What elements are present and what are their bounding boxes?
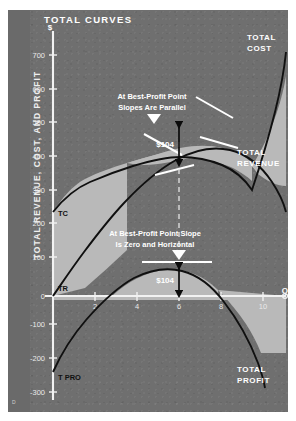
total-profit-label-line2: PROFIT	[237, 376, 270, 385]
figure-page: TOTAL REVENUE, COST, AND PROFIT TOTAL CU…	[0, 0, 296, 421]
total-revenue-label-line2: REVENUE	[237, 159, 280, 168]
ytick-0: 0	[41, 292, 45, 301]
ytick-200: 200	[32, 219, 45, 228]
upper-annotation-marker	[147, 114, 161, 124]
chart-svg: $ Q 700 600 500 400 300 200 100 0 -100 -…	[0, 0, 296, 421]
ytick-400: 400	[32, 152, 45, 161]
ytick-700: 700	[32, 51, 45, 60]
ytick-m100: -100	[30, 320, 45, 329]
xtick-8: 8	[219, 302, 223, 311]
xtick-4: 4	[135, 302, 139, 311]
upper-annotation-line2: Slopes Are Parallel	[118, 103, 186, 112]
total-cost-label-line1: TOTAL	[247, 33, 276, 42]
upper-gap-label: $104	[156, 140, 174, 149]
lower-gap-label: $104	[156, 276, 174, 285]
ytick-100: 100	[32, 253, 45, 262]
ytick-500: 500	[32, 118, 45, 127]
tc-inline-label: TC	[58, 209, 69, 218]
ytick-600: 600	[32, 85, 45, 94]
tr-inline-label: TR	[58, 284, 69, 293]
corner-mark: D	[12, 399, 16, 405]
ytick-300: 300	[32, 186, 45, 195]
y-axis-symbol: $	[48, 23, 53, 32]
total-revenue-label-line1: TOTAL	[237, 148, 266, 157]
lower-annotation-line2: Is Zero and Horizontal	[116, 240, 195, 249]
total-cost-label-line2: COST	[247, 44, 272, 53]
lower-annotation-marker	[172, 250, 186, 260]
xtick-6: 6	[177, 302, 181, 311]
tpro-inline-label: T PRO	[58, 373, 81, 382]
upper-annotation-line1: At Best-Profit Point	[117, 92, 187, 101]
ytick-m200: -200	[30, 354, 45, 363]
lower-annotation-line1: At Best-Profit Point Slope	[109, 229, 201, 238]
tangent-upper-cost	[196, 97, 233, 118]
total-profit-label-line1: TOTAL	[237, 365, 266, 374]
ytick-m300: -300	[30, 388, 45, 397]
loss-region-right	[252, 76, 286, 186]
xtick-10: 10	[259, 302, 267, 311]
